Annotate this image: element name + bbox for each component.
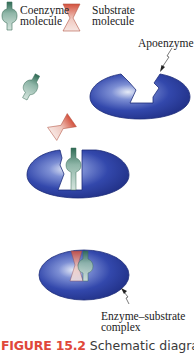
substrate-label-line2: molecule	[92, 16, 135, 27]
diagram-canvas	[0, 0, 194, 355]
complex-label: Enzyme–substrate complex	[101, 311, 185, 333]
complex-label-line2: complex	[101, 322, 185, 333]
coenzyme-legend-label: Coenzyme molecule	[20, 5, 69, 27]
coenzyme-label-line2: molecule	[20, 16, 69, 27]
figure-caption: FIGURE 15.2 Schematic diagram	[1, 338, 194, 353]
apoenzyme-shape	[90, 74, 190, 119]
figure-number: FIGURE 15.2	[1, 338, 86, 353]
substrate-legend-label: Substrate molecule	[92, 5, 135, 27]
enzyme-substrate-complex-shape	[39, 250, 129, 300]
complex-pointer-arrow	[121, 288, 129, 304]
holoenzyme-shape	[27, 148, 129, 198]
free-coenzyme-molecule	[18, 71, 43, 101]
free-substrate-molecule	[48, 114, 77, 141]
caption-text: Schematic diagram	[90, 338, 194, 353]
apoenzyme-pointer-arrow	[160, 48, 172, 72]
apoenzyme-label: Apoenzyme	[138, 38, 194, 49]
coenzyme-legend-icon	[2, 2, 17, 30]
